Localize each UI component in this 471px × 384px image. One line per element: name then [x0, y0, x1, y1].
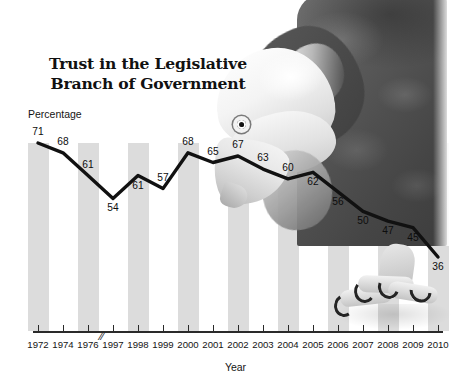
data-point-label: 50	[357, 215, 368, 226]
x-axis-tick-label: 1974	[52, 339, 73, 350]
x-axis-tick-label: 2006	[327, 339, 348, 350]
x-axis-tick	[113, 325, 114, 332]
x-axis-tick-label: 1999	[152, 339, 173, 350]
x-axis-tick-label: 1998	[127, 339, 148, 350]
data-point-label: 36	[432, 261, 443, 272]
x-axis-tick-label: 2001	[202, 339, 223, 350]
data-point-label: 54	[107, 202, 118, 213]
x-axis-tick	[438, 325, 439, 332]
data-line-series	[0, 0, 471, 384]
data-point-label: 63	[257, 152, 268, 163]
data-point-label: 67	[232, 139, 243, 150]
data-point-label: 60	[282, 162, 293, 173]
x-axis-tick-label: 2000	[177, 339, 198, 350]
data-point-label: 68	[182, 136, 193, 147]
x-axis-tick	[288, 325, 289, 332]
data-point-label: 68	[57, 136, 68, 147]
x-axis-tick	[313, 325, 314, 332]
x-axis-tick-label: 2004	[277, 339, 298, 350]
data-point-label: 57	[157, 172, 168, 183]
x-axis-tick-label: 2003	[252, 339, 273, 350]
x-axis-tick	[163, 325, 164, 332]
x-axis-tick-label: 2007	[352, 339, 373, 350]
x-axis-tick	[338, 325, 339, 332]
data-point-label: 61	[82, 159, 93, 170]
x-axis-tick	[38, 325, 39, 332]
data-point-label: 45	[407, 232, 418, 243]
data-point-label: 61	[132, 180, 143, 191]
data-point-label: 62	[307, 176, 318, 187]
x-axis-tick-label: 1972	[27, 339, 48, 350]
x-axis-tick	[363, 325, 364, 332]
x-axis-tick-label: 2002	[227, 339, 248, 350]
x-axis-tick	[413, 325, 414, 332]
x-axis-tick-label: 1976	[77, 339, 98, 350]
x-axis-tick	[138, 325, 139, 332]
x-axis-tick	[263, 325, 264, 332]
data-point-label: 65	[207, 146, 218, 157]
x-axis-tick-label: 2009	[402, 339, 423, 350]
x-axis-tick	[213, 325, 214, 332]
x-axis-tick	[88, 325, 89, 332]
x-axis-tick-label: 2005	[302, 339, 323, 350]
data-point-label: 71	[32, 126, 43, 137]
x-axis-tick	[238, 325, 239, 332]
data-point-label: 47	[382, 225, 393, 236]
chart-container: Trust in the Legislative Branch of Gover…	[0, 0, 471, 384]
x-axis-tick-label: 2008	[377, 339, 398, 350]
x-axis-tick-label: 2010	[427, 339, 448, 350]
x-axis-tick	[63, 325, 64, 332]
x-axis-tick	[188, 325, 189, 332]
data-point-label: 56	[332, 196, 343, 207]
x-axis-tick	[388, 325, 389, 332]
x-axis-tick-label: 1997	[102, 339, 123, 350]
